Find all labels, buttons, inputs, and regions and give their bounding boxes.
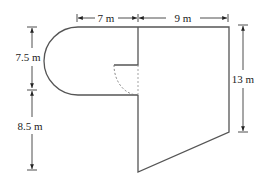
label-7m: 7 m bbox=[98, 12, 115, 24]
label-13m: 13 m bbox=[232, 73, 255, 85]
diagram-svg: 7 m 9 m 7.5 m 8.5 m 13 m bbox=[0, 0, 261, 183]
trapezoid-shape bbox=[138, 27, 229, 172]
label-9m: 9 m bbox=[175, 12, 192, 24]
inner-step-line bbox=[114, 27, 138, 65]
semicircle-shape bbox=[44, 27, 138, 95]
composite-shape-diagram: 7 m 9 m 7.5 m 8.5 m 13 m bbox=[0, 0, 261, 183]
label-8-5m: 8.5 m bbox=[17, 120, 43, 132]
dashed-quarter-arc bbox=[114, 65, 138, 95]
label-7-5m: 7.5 m bbox=[15, 51, 41, 63]
